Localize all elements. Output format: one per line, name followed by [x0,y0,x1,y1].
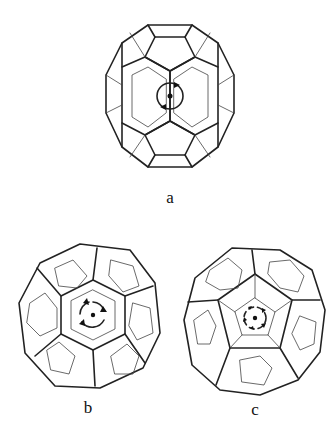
panel-b-diagram [15,238,165,393]
panel-c-diagram [180,240,330,400]
buckyball-2fold-drawing [100,5,240,183]
panel-b-label: b [73,398,103,418]
panel-a-label: a [155,188,185,208]
panel-a-diagram [100,5,240,183]
three-fold-rotation-icon [79,298,107,327]
buckyball-5fold-drawing [180,240,330,400]
buckyball-3fold-drawing [15,238,165,393]
five-fold-rotation-icon [243,306,266,330]
panel-c-label: c [240,400,270,420]
